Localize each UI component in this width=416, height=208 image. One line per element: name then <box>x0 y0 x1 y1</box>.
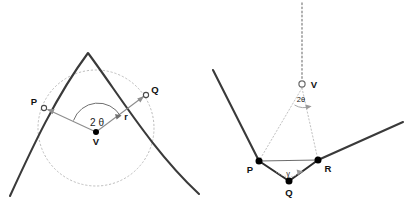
label-p-left: P <box>31 96 38 107</box>
point-marker-r-right <box>315 157 322 164</box>
label-angle-gamma: γ <box>286 169 290 178</box>
figure-background <box>0 0 416 208</box>
label-q-left: Q <box>151 84 158 95</box>
point-marker-v-left <box>93 129 99 135</box>
point-marker-q-left <box>143 92 148 97</box>
label-radius-r: r <box>124 112 128 122</box>
label-p-right: P <box>247 164 254 175</box>
label-v-left: V <box>93 136 100 147</box>
label-angle-2theta-left: 2 θ <box>90 117 104 128</box>
geometry-figure-root: P Q V 2 θ r <box>0 0 416 208</box>
point-marker-q-right <box>286 178 293 185</box>
label-angle-2theta-right: 2θ <box>297 95 305 104</box>
label-r-right: R <box>325 163 332 174</box>
point-marker-v-right <box>299 81 305 87</box>
point-marker-p-right <box>256 158 263 165</box>
label-q-right: Q <box>285 187 292 198</box>
label-v-right: V <box>311 79 318 90</box>
figure-canvas: P Q V 2 θ r <box>0 0 416 208</box>
point-marker-p-left <box>41 105 46 110</box>
